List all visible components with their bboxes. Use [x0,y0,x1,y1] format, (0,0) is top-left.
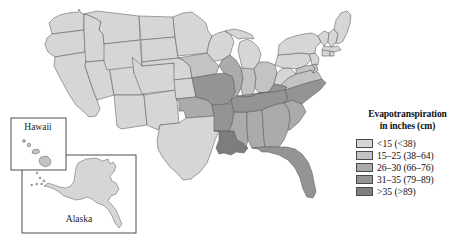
legend-row[interactable]: 31–35 (79–89) [356,174,459,186]
legend-swatch [356,139,373,148]
legend-label: 15–25 (38–64) [377,150,434,161]
hawaii-island-kauai [23,140,26,143]
hawaii-island-oahu [27,143,31,147]
legend-swatch [356,151,373,160]
state-FL[interactable] [252,147,316,198]
legend-entry-list: <15 (<38) 15–25 (38–64) 26–30 (66–76) 31… [356,137,459,198]
legend-swatch [356,187,373,196]
state-NJ[interactable] [309,53,319,65]
legend-row[interactable]: >35 (>89) [356,186,459,198]
aleutian-dot-3 [36,172,38,174]
state-VT[interactable] [318,31,329,46]
state-RI[interactable] [330,51,334,56]
state-MN[interactable] [173,12,212,56]
hawaii-inset-label: Hawaii [24,122,52,132]
state-ND[interactable] [139,16,175,40]
legend-title-line1: Evapotranspiration [368,108,447,119]
state-AZ[interactable] [114,95,147,129]
aleutian-dot-2 [39,177,41,179]
legend-title-line2: in inches (cm) [356,120,459,132]
state-NY[interactable] [278,33,321,55]
state-SD[interactable] [141,37,178,62]
legend-swatch [356,163,373,172]
legend-row[interactable]: 26–30 (66–76) [356,161,459,173]
legend-swatch [356,175,373,184]
legend-label: 26–30 (66–76) [377,162,434,173]
legend-row[interactable]: 15–25 (38–64) [356,149,459,161]
legend-label: 31–35 (79–89) [377,174,434,185]
legend-row[interactable]: <15 (<38) [356,137,459,149]
legend-title: Evapotranspiration in inches (cm) [356,108,459,131]
state-GA[interactable] [262,103,290,147]
evapotranspiration-map-figure: Alaska Hawaii Evapotranspiration in inch… [0,0,459,243]
state-CT[interactable] [322,50,330,56]
state-TX[interactable] [157,116,219,180]
hawaii-inset: Hawaii [11,118,66,170]
map-legend: Evapotranspiration in inches (cm) <15 (<… [356,108,459,198]
aleutian-dot-1 [43,180,45,182]
legend-label: >35 (>89) [377,186,416,197]
state-IN[interactable] [241,68,256,97]
alaska-inset-label: Alaska [66,214,93,224]
legend-label: <15 (<38) [377,138,416,149]
state-WA[interactable] [49,9,84,34]
